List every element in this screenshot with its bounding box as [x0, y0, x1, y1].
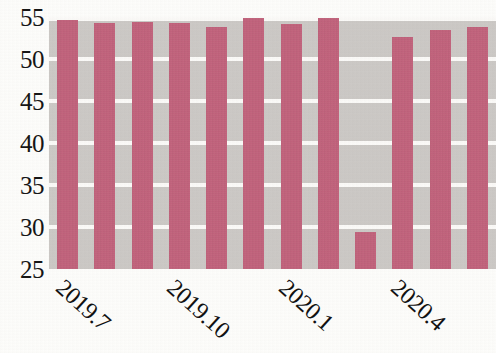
y-axis-tick-label: 40	[20, 131, 44, 156]
bar-chart: 25303540455055 2019.72019.102020.12020.4	[0, 0, 496, 353]
y-axis-tick-label: 35	[20, 173, 44, 198]
bar	[318, 18, 339, 269]
bar	[281, 24, 302, 269]
x-axis: 2019.72019.102020.12020.4	[49, 269, 496, 353]
bar	[392, 37, 413, 269]
bar	[243, 18, 264, 269]
x-axis-tick-label: 2019.10	[163, 275, 234, 343]
plot-area	[49, 17, 496, 269]
y-axis-tick-label: 25	[20, 257, 44, 282]
bar-series	[49, 17, 496, 269]
bar	[57, 20, 78, 269]
y-axis: 25303540455055	[0, 0, 49, 353]
bar	[430, 30, 451, 269]
y-axis-tick-label: 45	[20, 89, 44, 114]
y-axis-tick-label: 30	[20, 215, 44, 240]
x-axis-tick-label: 2019.7	[52, 275, 115, 335]
y-axis-tick-label: 50	[20, 47, 44, 72]
x-axis-tick-label: 2020.4	[387, 275, 450, 335]
bar	[355, 232, 376, 269]
x-axis-tick-label: 2020.1	[275, 275, 338, 335]
bar	[206, 27, 227, 269]
bar	[169, 23, 190, 269]
bar	[132, 22, 153, 269]
bar	[94, 23, 115, 269]
bar	[467, 27, 488, 269]
y-axis-tick-label: 55	[20, 5, 44, 30]
